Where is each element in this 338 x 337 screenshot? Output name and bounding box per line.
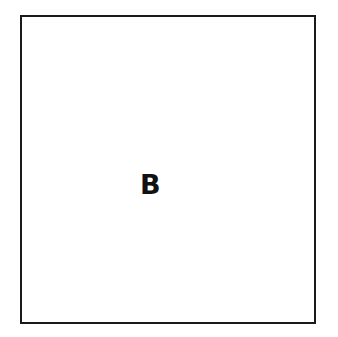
square-region xyxy=(20,15,316,324)
region-label: B xyxy=(140,171,161,198)
